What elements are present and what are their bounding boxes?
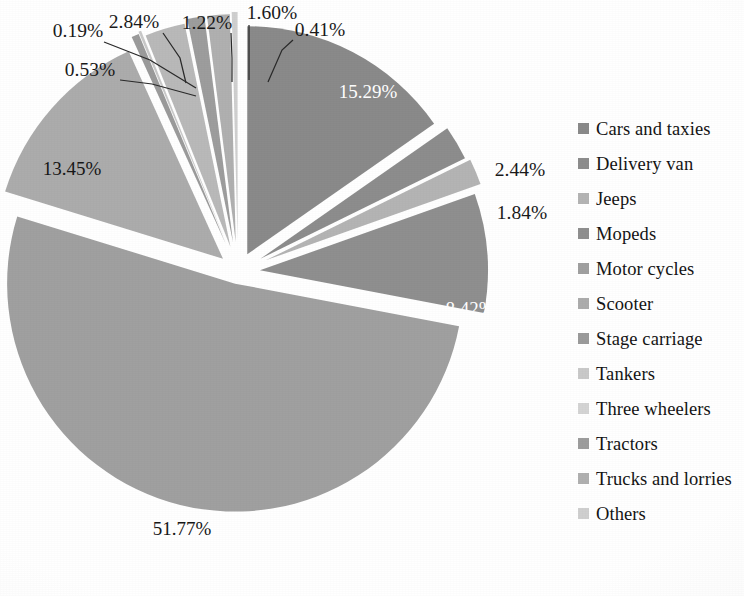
legend-item-label: Three wheelers xyxy=(596,392,711,427)
slice-percentage-label: 8.42% xyxy=(445,298,494,319)
slice-percentage-label: 0.19% xyxy=(53,20,103,41)
legend-swatch-icon xyxy=(578,228,589,239)
legend-swatch-icon xyxy=(578,333,589,344)
legend-item-stage-carriage[interactable]: Stage carriage xyxy=(578,322,744,357)
legend-item-label: Mopeds xyxy=(596,217,656,252)
slice-percentage-label: 2.44% xyxy=(495,159,545,180)
legend-item-motor-cycles[interactable]: Motor cycles xyxy=(578,252,744,287)
chart-legend: Cars and taxies Delivery van Jeeps Moped… xyxy=(578,112,744,532)
legend-swatch-icon xyxy=(578,508,589,519)
legend-item-delivery-van[interactable]: Delivery van xyxy=(578,147,744,182)
legend-item-mopeds[interactable]: Mopeds xyxy=(578,217,744,252)
legend-swatch-icon xyxy=(578,158,589,169)
slice-percentage-label: 2.84% xyxy=(109,11,159,32)
legend-item-tankers[interactable]: Tankers xyxy=(578,357,744,392)
legend-item-jeeps[interactable]: Jeeps xyxy=(578,182,744,217)
pie-slices-group xyxy=(5,12,488,512)
slice-percentage-label: 0.41% xyxy=(295,19,345,40)
legend-item-label: Jeeps xyxy=(596,182,637,217)
slice-percentage-label: 1.22% xyxy=(182,12,232,33)
slice-percentage-label: 1.60% xyxy=(247,2,297,23)
legend-item-label: Motor cycles xyxy=(596,252,694,287)
legend-swatch-icon xyxy=(578,193,589,204)
legend-swatch-icon xyxy=(578,438,589,449)
legend-item-tractors[interactable]: Tractors xyxy=(578,427,744,462)
legend-swatch-icon xyxy=(578,473,589,484)
legend-item-trucks-and-lorries[interactable]: Trucks and lorries xyxy=(578,462,744,497)
legend-item-label: Tankers xyxy=(596,357,655,392)
legend-swatch-icon xyxy=(578,403,589,414)
pie-chart-area: 15.29%8.42%51.77%13.45%2.44%1.84%0.19%0.… xyxy=(0,0,560,596)
legend-item-label: Others xyxy=(596,497,646,532)
legend-item-scooter[interactable]: Scooter xyxy=(578,287,744,322)
legend-item-label: Cars and taxies xyxy=(596,112,711,147)
legend-swatch-icon xyxy=(578,298,589,309)
slice-percentage-label: 0.53% xyxy=(65,59,115,80)
legend-swatch-icon xyxy=(578,263,589,274)
legend-swatch-icon xyxy=(578,123,589,134)
slice-percentage-label: 15.29% xyxy=(339,81,398,102)
legend-item-others[interactable]: Others xyxy=(578,497,744,532)
legend-item-three-wheelers[interactable]: Three wheelers xyxy=(578,392,744,427)
legend-swatch-icon xyxy=(578,368,589,379)
pie-chart-svg: 15.29%8.42%51.77%13.45%2.44%1.84%0.19%0.… xyxy=(0,0,560,596)
slice-percentage-label: 13.45% xyxy=(43,158,102,179)
slice-percentage-label: 1.84% xyxy=(497,202,547,223)
legend-item-label: Tractors xyxy=(596,427,658,462)
legend-item-label: Scooter xyxy=(596,287,653,322)
legend-item-label: Stage carriage xyxy=(596,322,703,357)
slice-percentage-label: 51.77% xyxy=(153,518,212,539)
legend-item-label: Delivery van xyxy=(596,147,693,182)
legend-item-label: Trucks and lorries xyxy=(596,462,732,497)
legend-item-cars-and-taxies[interactable]: Cars and taxies xyxy=(578,112,744,147)
